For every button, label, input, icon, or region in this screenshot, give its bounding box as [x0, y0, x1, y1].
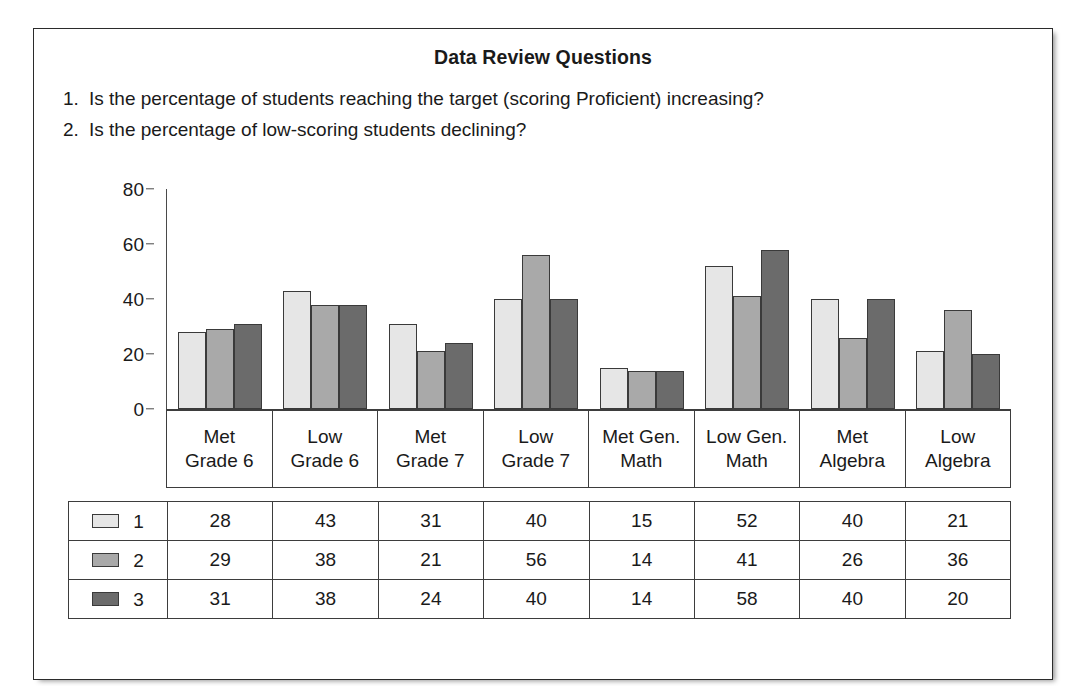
bar-series-1	[389, 324, 417, 409]
table-cell: 14	[589, 580, 694, 619]
page-title: Data Review Questions	[34, 46, 1052, 69]
bar-series-2	[311, 305, 339, 410]
y-axis-tick-mark	[146, 188, 154, 189]
bar-series-1	[600, 368, 628, 409]
bar-series-2	[522, 255, 550, 409]
plot-area	[166, 189, 1011, 409]
series-label: 2	[133, 549, 144, 570]
bar-series-1	[178, 332, 206, 409]
table-cell: 43	[273, 502, 378, 541]
table-cell: 14	[589, 541, 694, 580]
table-cell: 20	[905, 580, 1010, 619]
bar-series-3	[339, 305, 367, 410]
bar-series-3	[656, 371, 684, 410]
category-label: Low Gen.Math	[695, 410, 801, 487]
table-cell: 40	[484, 502, 589, 541]
table-cell: 31	[168, 580, 273, 619]
question-text: Is the percentage of low-scoring student…	[89, 119, 526, 140]
y-axis-tick-label: 60	[123, 235, 144, 254]
category-label-line: Math	[620, 449, 662, 472]
table-cell: 40	[800, 502, 905, 541]
legend-cell: 1	[69, 502, 168, 541]
table-cell: 31	[378, 502, 483, 541]
bar-series-3	[550, 299, 578, 409]
y-axis-tick-mark	[146, 408, 154, 409]
category-label: LowAlgebra	[906, 410, 1011, 487]
series-3-swatch-icon	[92, 592, 119, 606]
series-label: 3	[133, 588, 144, 609]
bar-series-3	[445, 343, 473, 409]
table-cell: 28	[168, 502, 273, 541]
category-label-line: Low	[940, 425, 975, 448]
table-cell: 38	[273, 580, 378, 619]
table-cell: 38	[273, 541, 378, 580]
bar-series-1	[916, 351, 944, 409]
y-axis-tick-label: 80	[123, 180, 144, 199]
category-label-line: Low Gen.	[706, 425, 787, 448]
bar-group	[484, 189, 590, 409]
bar-group	[273, 189, 379, 409]
bar-series-3	[867, 299, 895, 409]
bar-series-2	[944, 310, 972, 409]
bar-series-2	[206, 329, 234, 409]
category-label-line: Low	[307, 425, 342, 448]
bar-series-2	[839, 338, 867, 410]
category-label-band: MetGrade 6LowGrade 6MetGrade 7LowGrade 7…	[166, 410, 1011, 488]
table-cell: 26	[800, 541, 905, 580]
bar-series-2	[733, 296, 761, 409]
category-label-line: Met	[836, 425, 868, 448]
category-label-line: Met Gen.	[602, 425, 680, 448]
series-2-swatch-icon	[92, 553, 119, 567]
bar-series-1	[494, 299, 522, 409]
category-label-line: Math	[726, 449, 768, 472]
y-axis-tick-mark	[146, 353, 154, 354]
category-label-line: Grade 6	[185, 449, 254, 472]
bar-series-1	[811, 299, 839, 409]
table-cell: 29	[168, 541, 273, 580]
bar-series-1	[283, 291, 311, 409]
bar-series-2	[628, 371, 656, 410]
data-table: 1284331401552402122938215614412636331382…	[68, 501, 1011, 619]
bar-series-1	[705, 266, 733, 409]
category-label-line: Low	[518, 425, 553, 448]
bar-series-3	[972, 354, 1000, 409]
table-cell: 41	[694, 541, 799, 580]
category-label-line: Algebra	[820, 449, 886, 472]
question-number: 1.	[63, 88, 89, 110]
table-row: 22938215614412636	[69, 541, 1011, 580]
category-label-line: Grade 6	[290, 449, 359, 472]
table-cell: 24	[378, 580, 483, 619]
bar-group	[800, 189, 906, 409]
legend-cell: 3	[69, 580, 168, 619]
question-text: Is the percentage of students reaching t…	[89, 88, 764, 109]
category-label-line: Met	[203, 425, 235, 448]
question-item-1: 1.Is the percentage of students reaching…	[63, 88, 764, 110]
bar-group	[167, 189, 273, 409]
bar-group	[378, 189, 484, 409]
bar-series-3	[234, 324, 262, 409]
question-number: 2.	[63, 119, 89, 141]
y-axis-tick-mark	[146, 298, 154, 299]
y-axis-tick-label: 20	[123, 345, 144, 364]
bar-series-3	[761, 250, 789, 410]
table-cell: 21	[905, 502, 1010, 541]
table-cell: 40	[800, 580, 905, 619]
bar-chart: 020406080 MetGrade 6LowGrade 6MetGrade 7…	[34, 189, 1054, 489]
category-label: Met Gen.Math	[589, 410, 695, 487]
table-cell: 56	[484, 541, 589, 580]
y-axis-tick-label: 40	[123, 290, 144, 309]
table-cell: 36	[905, 541, 1010, 580]
category-label: MetGrade 6	[167, 410, 273, 487]
bar-group	[589, 189, 695, 409]
table-cell: 52	[694, 502, 799, 541]
table-row: 33138244014584020	[69, 580, 1011, 619]
legend-cell: 2	[69, 541, 168, 580]
y-axis: 020406080	[102, 189, 154, 409]
table-cell: 58	[694, 580, 799, 619]
category-label: LowGrade 6	[273, 410, 379, 487]
table-cell: 21	[378, 541, 483, 580]
y-axis-tick-label: 0	[133, 400, 144, 419]
bar-group	[695, 189, 801, 409]
document-page: Data Review Questions 1.Is the percentag…	[33, 28, 1053, 680]
bar-group	[906, 189, 1012, 409]
